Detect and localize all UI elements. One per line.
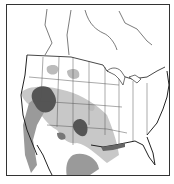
north-america-map [7,5,170,176]
map-frame [6,4,170,176]
